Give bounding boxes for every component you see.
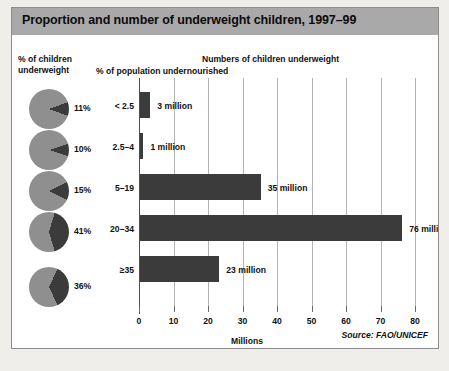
x-axis-tick — [174, 306, 175, 312]
pie-row: 36% — [22, 267, 97, 311]
bar-value-label: 3 million — [157, 101, 192, 111]
pie-column-heading: % of children underweight — [18, 54, 72, 75]
bar-value-label: 23 million — [226, 265, 266, 275]
x-axis-tick-label: 80 — [403, 316, 427, 326]
x-axis-tick-label: 30 — [231, 316, 255, 326]
bar — [140, 174, 261, 200]
figure-panel: Proportion and number of underweight chi… — [11, 7, 439, 349]
gridline — [312, 78, 313, 306]
bar-value-label: 1 million — [150, 142, 185, 152]
pie-percent-label: 36% — [74, 281, 91, 291]
pie-chart — [29, 267, 69, 307]
bar — [140, 256, 219, 282]
x-axis-tick — [208, 306, 209, 312]
pie-chart — [29, 171, 69, 211]
pie-percent-label: 15% — [74, 185, 91, 195]
gridline — [415, 78, 416, 306]
x-axis-tick — [415, 306, 416, 312]
gridline — [346, 78, 347, 306]
x-axis-tick — [381, 306, 382, 312]
pie-chart — [29, 130, 69, 170]
category-label: ≥35 — [96, 265, 134, 275]
pie-row: 10% — [22, 130, 97, 174]
x-axis-tick-label: 50 — [300, 316, 324, 326]
category-label: 2.5–4 — [96, 142, 134, 152]
x-axis-tick-label: 0 — [127, 316, 151, 326]
x-axis-tick-label: 70 — [369, 316, 393, 326]
pie-chart — [29, 89, 69, 129]
x-axis-tick-label: 10 — [162, 316, 186, 326]
x-axis-tick — [346, 306, 347, 312]
pie-row: 11% — [22, 89, 97, 133]
title-band: Proportion and number of underweight chi… — [12, 8, 438, 35]
x-axis-tick-label: 40 — [265, 316, 289, 326]
x-axis-tick — [312, 306, 313, 312]
pie-percent-label: 41% — [74, 226, 91, 236]
gridline — [381, 78, 382, 306]
x-axis-tick-label: 60 — [334, 316, 358, 326]
bar — [140, 133, 143, 159]
x-axis-tick — [139, 306, 140, 312]
pie-chart — [29, 212, 69, 252]
source-note: Source: FAO/UNICEF — [342, 330, 428, 340]
x-axis-tick-label: 20 — [196, 316, 220, 326]
bar-value-label: 76 million — [409, 224, 439, 234]
x-axis-title: Millions — [231, 336, 263, 346]
x-axis-tick — [277, 306, 278, 312]
pie-row: 15% — [22, 171, 97, 215]
category-label: < 2.5 — [96, 101, 134, 111]
figure-title: Proportion and number of underweight chi… — [22, 13, 356, 27]
bar — [140, 92, 150, 118]
pie-percent-label: 10% — [74, 144, 91, 154]
pie-column-heading-line1: % of children — [18, 54, 72, 65]
pie-percent-label: 11% — [74, 103, 91, 113]
category-column-heading: % of population undernourished — [96, 66, 228, 77]
pie-row: 41% — [22, 212, 97, 256]
category-label: 5–19 — [96, 183, 134, 193]
pie-column-heading-line2: underweight — [18, 65, 72, 76]
x-axis-tick — [243, 306, 244, 312]
category-label: 20–34 — [96, 224, 134, 234]
bar-column-heading: Numbers of children underweight — [202, 54, 339, 65]
bar-value-label: 35 million — [268, 183, 308, 193]
bar — [140, 215, 402, 241]
